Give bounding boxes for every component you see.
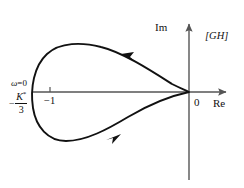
real-axis-label: Re [213,98,225,109]
fraction-numerator: K* [15,92,27,103]
omega-equals-zero: =0 [17,78,27,88]
origin-label: 0 [194,97,200,108]
plane-label-gh: [GH] [205,31,228,42]
star-superscript: * [23,90,27,98]
upper-branch-arrow-icon [121,52,136,62]
fraction-k-star-over-three: K* 3 [15,92,27,115]
omega-zero-label: ω=0 [11,79,27,88]
k-symbol: K [16,91,23,102]
fraction-denominator: 3 [18,104,25,115]
imaginary-axis-label: Im [155,22,167,33]
minus-sign: − [9,99,15,109]
lower-branch-arrow-icon [106,134,121,144]
nyquist-plot-figure: Im Re 0 [GH] −1 ω=0 − K* 3 [0,0,244,188]
minus-k-star-over-three-label: − K* 3 [9,92,27,115]
tick-label-minus-one: −1 [44,96,55,107]
plot-canvas [0,0,244,188]
